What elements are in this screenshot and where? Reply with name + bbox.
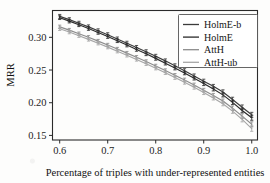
- y-tick-label: 0.30: [28, 32, 46, 43]
- legend-label-2: AttH: [204, 44, 224, 55]
- x-tick-label: 0.6: [53, 145, 66, 156]
- x-axis-title: Percentage of triples with under-represe…: [46, 167, 265, 178]
- mrr-line-chart: 0.60.70.80.91.0 0.150.200.250.30 Percent…: [0, 0, 270, 183]
- legend-label-0: HolmE-b: [204, 19, 241, 30]
- legend: HolmE-bHolmEAttHAttH-ub: [179, 15, 258, 68]
- x-tick-label: 1.0: [245, 145, 258, 156]
- x-tick-label: 0.9: [197, 145, 210, 156]
- legend-label-3: AttH-ub: [204, 57, 237, 68]
- legend-label-1: HolmE: [204, 32, 233, 43]
- y-axis-title: MRR: [5, 63, 16, 86]
- y-tick-label: 0.15: [28, 130, 46, 141]
- y-tick-label: 0.25: [28, 65, 46, 76]
- x-axis-ticks: 0.60.70.80.91.0: [53, 140, 258, 156]
- x-tick-label: 0.8: [149, 145, 162, 156]
- y-axis-ticks: 0.150.200.250.30: [28, 32, 52, 141]
- y-tick-label: 0.20: [28, 97, 46, 108]
- figure-container: 0.60.70.80.91.0 0.150.200.250.30 Percent…: [0, 0, 270, 183]
- x-tick-label: 0.7: [101, 145, 114, 156]
